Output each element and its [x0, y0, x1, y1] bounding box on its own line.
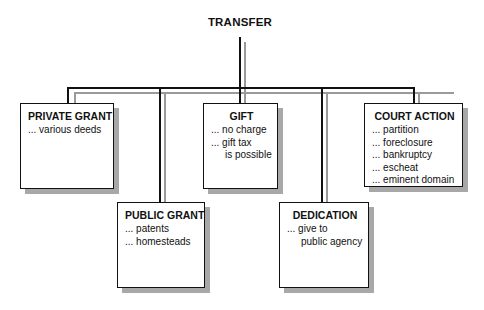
horizontal-bus — [67, 87, 415, 89]
node-dedication: DEDICATION ... give to public agency — [279, 202, 369, 288]
stem-public-grant — [159, 87, 161, 202]
node-court-action: COURT ACTION ... partition ... foreclosu… — [364, 103, 463, 187]
node-item: ... eminent domain — [372, 174, 457, 187]
node-title: COURT ACTION — [372, 110, 457, 122]
node-item: ... give to — [287, 223, 363, 236]
root-node-label: TRANSFER — [190, 16, 290, 28]
node-item: ... various deeds — [28, 124, 108, 137]
node-gift: GIFT ... no charge ... gift tax is possi… — [203, 103, 278, 189]
node-private-grant: PRIVATE GRANT ... various deeds — [20, 103, 114, 189]
node-title: PUBLIC GRANT — [125, 209, 199, 221]
node-item: ... bankruptcy — [372, 149, 457, 162]
node-item: ... escheat — [372, 162, 457, 175]
node-public-grant: PUBLIC GRANT ... patents ... homesteads — [117, 202, 205, 288]
node-title: PRIVATE GRANT — [28, 110, 108, 122]
node-item: ... no charge — [211, 124, 272, 137]
node-title: GIFT — [211, 110, 272, 122]
node-item: ... gift tax — [211, 137, 272, 150]
node-item: public agency — [287, 236, 363, 249]
stem-private-grant — [67, 87, 69, 103]
node-item: is possible — [211, 149, 272, 162]
root-stem — [239, 37, 241, 103]
node-item: ... patents — [125, 223, 199, 236]
stem-dedication — [321, 87, 323, 202]
node-title: DEDICATION — [287, 209, 363, 221]
node-item: ... foreclosure — [372, 137, 457, 150]
node-item: ... homesteads — [125, 236, 199, 249]
stem-court-action — [413, 87, 415, 103]
node-item: ... partition — [372, 124, 457, 137]
